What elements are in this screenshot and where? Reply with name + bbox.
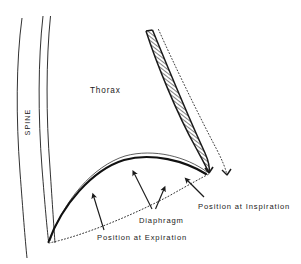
spine-outer-curve (17, 18, 27, 258)
rib-group (130, 20, 231, 185)
label-spine: SPINE (23, 109, 32, 136)
rib-inspiration-dotted (159, 30, 228, 176)
spine-inner-curve (47, 16, 55, 243)
labels-group: SPINE Thorax Diaphragm Position at Inspi… (23, 86, 290, 242)
spine-group (17, 16, 55, 258)
label-position-inspiration: Position at Inspiration (198, 202, 290, 211)
rib-top-cap (146, 30, 153, 31)
arrow-expiration (94, 196, 105, 230)
diaphragm-expiration-curve (49, 157, 207, 242)
diagram-canvas: SPINE Thorax Diaphragm Position at Inspi… (0, 0, 301, 264)
anatomy-diagram: SPINE Thorax Diaphragm Position at Inspi… (0, 0, 301, 264)
spine-middle-curve (39, 16, 48, 241)
arrow-diaphragm-upper (134, 173, 152, 209)
label-position-expiration: Position at Expiration (97, 233, 187, 242)
diaphragm-group (49, 153, 210, 243)
arrow-inspiration (187, 180, 204, 197)
label-diaphragm: Diaphragm (139, 216, 184, 225)
label-thorax: Thorax (90, 86, 121, 95)
rib-hatch-fill (130, 20, 230, 185)
